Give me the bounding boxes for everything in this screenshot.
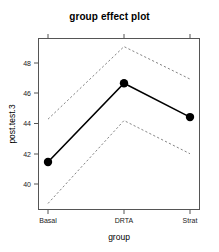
y-tick-label-46: 46: [23, 90, 31, 97]
data-point-drta: [120, 79, 128, 87]
x-tick-label-basal: Basal: [39, 217, 57, 224]
plot-frame: [39, 39, 200, 210]
upper-confidence-band: [48, 47, 190, 120]
fitted-series-markers: [44, 79, 194, 166]
plot-canvas: 40 42 44 46 48 post.test.3 Basal DRTA St…: [0, 0, 219, 252]
y-tick-label-42: 42: [23, 151, 31, 158]
lower-confidence-band: [48, 121, 190, 204]
y-axis-title: post.test.3: [7, 104, 17, 143]
effect-plot-figure: group effect plot 40 42 44 46 48 post.te…: [0, 0, 219, 252]
data-point-strat: [186, 113, 194, 121]
x-axis-title: group: [108, 232, 130, 242]
data-point-basal: [44, 158, 52, 166]
x-tick-label-drta: DRTA: [115, 217, 134, 224]
y-tick-label-48: 48: [23, 60, 31, 67]
x-tick-label-strat: Strat: [183, 217, 198, 224]
y-tick-label-44: 44: [23, 120, 31, 127]
fitted-series-line: [48, 83, 190, 162]
y-tick-label-40: 40: [23, 181, 31, 188]
